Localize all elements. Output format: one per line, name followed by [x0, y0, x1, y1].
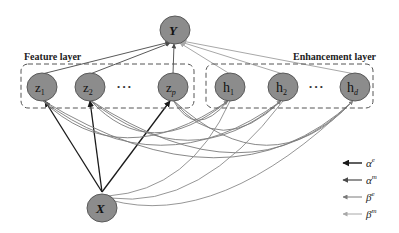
feature-layer-title: Feature layer [24, 51, 82, 62]
svg-text:βm: βm [365, 207, 377, 220]
node-h2: h2 [268, 73, 298, 101]
enhancement-ellipsis: • • • [309, 82, 323, 92]
broad-learning-diagram: Feature layer Enhancement layer z1 z2 • … [0, 0, 399, 233]
legend-item-alpha-e: αe [343, 156, 375, 169]
svg-text:αe: αe [366, 156, 375, 169]
svg-text:Y: Y [169, 23, 178, 38]
enhancement-layer-title: Enhancement layer [293, 51, 377, 62]
node-hd: hd [340, 73, 370, 101]
node-h1: h1 [215, 73, 245, 101]
svg-text:X: X [95, 201, 105, 216]
node-z2: z2 [75, 73, 105, 101]
edges-input-to-enhancement [108, 101, 353, 206]
legend-item-beta-m: βm [343, 207, 377, 220]
edges-features-to-enhancement [42, 100, 353, 158]
legend: αe αm βe βm [343, 156, 377, 220]
svg-text:βe: βe [365, 190, 375, 203]
node-zp: zp [158, 73, 188, 101]
node-input-x: X [87, 194, 117, 222]
feature-ellipsis: • • • [117, 82, 131, 92]
legend-item-alpha-m: αm [343, 173, 377, 186]
node-output-y: Y [160, 16, 190, 44]
svg-text:αm: αm [366, 173, 377, 186]
legend-item-beta-e: βe [343, 190, 375, 203]
node-z1: z1 [27, 73, 57, 101]
